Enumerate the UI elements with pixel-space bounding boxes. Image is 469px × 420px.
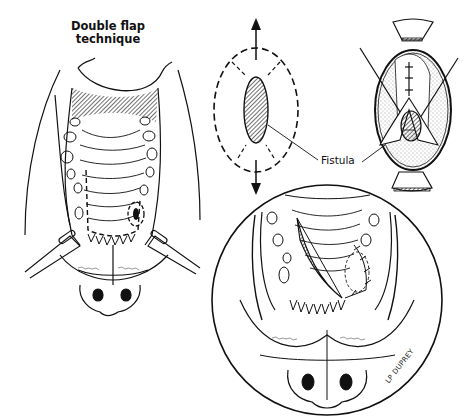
- illustration-drawing: [0, 0, 469, 420]
- surgical-illustration: Double flap technique: [0, 0, 469, 420]
- fistula-label: Fistula: [321, 154, 355, 166]
- flap-detail-panel: [360, 19, 458, 191]
- overview-panel: [25, 58, 200, 316]
- incision-schematic-panel: [214, 18, 318, 195]
- closure-magnified-panel: [212, 185, 442, 415]
